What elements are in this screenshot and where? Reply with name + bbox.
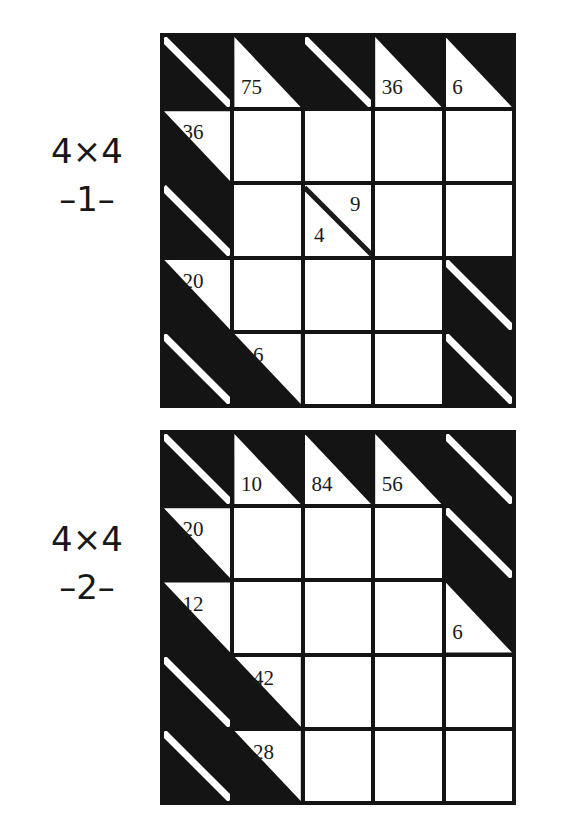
block-cell (164, 657, 230, 727)
diagonal-slash-icon (164, 731, 230, 801)
diagonal-slash-icon (446, 434, 512, 504)
across-clue-number: 20 (183, 519, 204, 540)
clue-cell: 28 (234, 731, 300, 801)
entry-cell[interactable] (446, 657, 512, 727)
clue-cell: 56 (375, 434, 441, 504)
entry-cell[interactable] (305, 582, 371, 652)
entry-cell[interactable] (375, 657, 441, 727)
clue-cell: 10 (234, 434, 300, 504)
across-clue-number: 28 (253, 742, 274, 763)
diagonal-slash-icon (164, 434, 230, 504)
puzzle-2-grid: 108456201264228 (160, 430, 516, 805)
clue-cell: 20 (164, 508, 230, 578)
puzzle-page: 4×4 –1– 753663694206 4×4 –2– 10845620126… (0, 0, 574, 833)
clue-cell: 42 (234, 657, 300, 727)
entry-cell[interactable] (375, 731, 441, 801)
clue-cell: 84 (305, 434, 371, 504)
clue-cell: 6 (446, 582, 512, 652)
block-cell (446, 434, 512, 504)
diagonal-slash-icon (164, 657, 230, 727)
across-clue-number: 42 (253, 668, 274, 689)
down-clue-number: 6 (452, 622, 463, 643)
entry-cell[interactable] (375, 508, 441, 578)
clue-cell: 12 (164, 582, 230, 652)
entry-cell[interactable] (305, 508, 371, 578)
entry-cell[interactable] (305, 731, 371, 801)
across-clue-number: 12 (183, 594, 204, 615)
entry-cell[interactable] (234, 582, 300, 652)
block-cell (446, 508, 512, 578)
puzzle-2-size-label: 4×4 (18, 516, 156, 562)
puzzle-2-caption: 4×4 –2– (18, 516, 156, 612)
entry-cell[interactable] (446, 731, 512, 801)
diagonal-slash-icon (446, 508, 512, 578)
puzzle-2: 4×4 –2– 108456201264228 (0, 0, 574, 833)
entry-cell[interactable] (305, 657, 371, 727)
down-clue-number: 10 (241, 474, 262, 495)
block-cell (164, 731, 230, 801)
entry-cell[interactable] (234, 508, 300, 578)
block-cell (164, 434, 230, 504)
puzzle-2-index-label: –2– (18, 562, 156, 612)
entry-cell[interactable] (375, 582, 441, 652)
down-clue-number: 84 (311, 474, 332, 495)
down-clue-number: 56 (382, 474, 403, 495)
